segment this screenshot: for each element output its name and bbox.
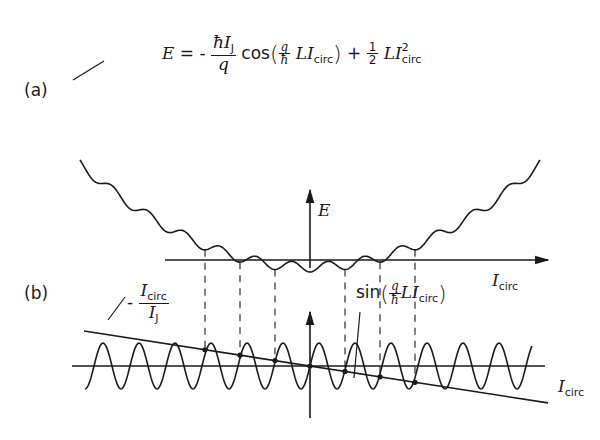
- sine-label: sin(qħLIcirc): [356, 280, 447, 306]
- upper-axes: [165, 190, 548, 268]
- energy-axis-label: E: [318, 200, 330, 220]
- line-label-leader: [108, 297, 125, 320]
- linear-line: [84, 331, 548, 403]
- sine-label-leader: [354, 312, 360, 378]
- upper-x-axis-label: Icirc: [492, 270, 518, 293]
- panel-b-label: (b): [24, 283, 48, 303]
- fraction-hbar-IJ-over-q: ħIJ q: [211, 34, 236, 73]
- line-label: - IcircIJ: [127, 282, 169, 324]
- equation-leader-line: [73, 61, 104, 80]
- lower-x-axis-label: Icirc: [558, 376, 584, 399]
- energy-equation: E = - ħIJ q cos(qħ LIcirc) + 12 LI2circ: [162, 34, 421, 73]
- lower-plot: [72, 312, 548, 418]
- panel-a-label: (a): [24, 80, 48, 100]
